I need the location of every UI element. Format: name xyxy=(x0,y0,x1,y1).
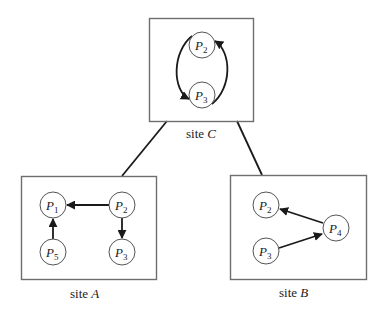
link-site-c-to-site-b xyxy=(237,121,262,175)
site-b-label: site B xyxy=(279,285,308,300)
node-b-p3: P3 xyxy=(253,238,279,264)
node-a-p1: P1 xyxy=(40,192,66,218)
node-b-p2: P2 xyxy=(253,192,279,218)
node-a-p2: P2 xyxy=(109,192,135,218)
wait-for-graph-diagram: P2 P3 site C P1 P2 P5 P3 site A xyxy=(0,0,384,311)
edge-p4-to-p2 xyxy=(280,209,323,223)
site-a: P1 P2 P5 P3 site A xyxy=(22,177,157,302)
node-c-p3: P3 xyxy=(189,82,215,108)
node-a-p3: P3 xyxy=(109,239,135,265)
site-b: P2 P4 P3 site B xyxy=(231,176,367,301)
node-c-p2: P2 xyxy=(189,32,215,58)
node-b-p4: P4 xyxy=(323,215,349,241)
site-a-label: site A xyxy=(70,286,99,301)
node-a-p5: P5 xyxy=(40,239,66,265)
site-a-box xyxy=(22,177,157,280)
edge-p3-to-p4 xyxy=(279,234,322,248)
site-c-label: site C xyxy=(186,126,216,141)
link-site-c-to-site-a xyxy=(122,121,167,176)
